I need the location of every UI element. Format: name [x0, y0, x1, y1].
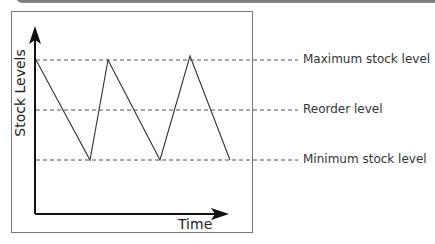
reorder-level-label: Reorder level: [303, 102, 383, 116]
minimum-level-label: Minimum stock level: [303, 152, 427, 166]
x-axis-label: Time: [178, 216, 212, 232]
y-axis-label: Stock Levels: [12, 49, 28, 136]
maximum-level-label: Maximum stock level: [303, 52, 430, 66]
stock-level-line: [36, 56, 230, 160]
